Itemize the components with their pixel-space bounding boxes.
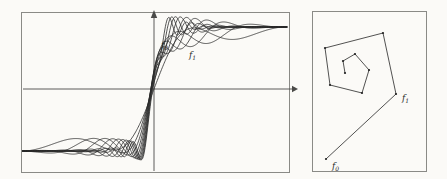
orbit-label-f0: f0: [331, 161, 339, 172]
curve-labels: f0f1: [160, 40, 196, 61]
right-panel-frame: [313, 12, 427, 172]
orbit-spiral-svg: f0f1: [312, 11, 427, 172]
axes-group: [23, 10, 298, 171]
orbit-vertex-4: [329, 84, 331, 86]
orbit-vertex-5: [361, 92, 363, 94]
x-axis-arrowhead: [292, 86, 298, 92]
orbit-vertex-9: [344, 72, 346, 74]
orbit-vertex-2: [382, 32, 384, 34]
orbit-labels: f0f1: [331, 93, 409, 172]
curve-f2: [22, 22, 286, 155]
function-family-svg: f0f1: [21, 12, 290, 173]
left-panel: f0f1: [21, 12, 290, 173]
orbit-vertex-1: [395, 93, 397, 95]
label-f1: f1: [188, 50, 196, 61]
orbit-vertex-0: [325, 158, 327, 160]
orbit-vertex-8: [342, 60, 344, 62]
orbit-vertex-3: [324, 47, 326, 49]
orbit-label-f1: f1: [401, 93, 409, 104]
y-axis-arrowhead: [151, 10, 157, 18]
orbit-vertex-7: [354, 53, 356, 55]
figure-container: f0f1 f0f1: [0, 0, 447, 179]
orbit-vertex-6: [368, 69, 370, 71]
orbit-polyline: [325, 33, 396, 159]
right-panel: f0f1: [312, 11, 427, 172]
curve-family: [22, 17, 286, 160]
orbit-vertices: [324, 32, 397, 160]
orbit-path: [325, 33, 396, 159]
left-panel-frame: [22, 13, 290, 173]
